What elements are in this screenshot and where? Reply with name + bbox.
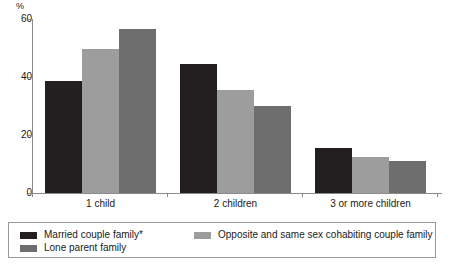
bar xyxy=(315,148,352,193)
chart-legend: Married couple family*Opposite and same … xyxy=(8,222,436,258)
x-axis-tick-mark xyxy=(32,193,33,197)
legend-item[interactable]: Opposite and same sex cohabiting couple … xyxy=(194,229,433,241)
legend-swatch-icon xyxy=(20,245,37,252)
y-axis-unit-label: % xyxy=(16,1,24,11)
legend-label: Opposite and same sex cohabiting couple … xyxy=(218,229,433,241)
x-axis-tick-mark xyxy=(302,193,303,197)
y-axis-tick-mark xyxy=(28,19,32,20)
y-axis-tick-mark xyxy=(28,135,32,136)
bar-group xyxy=(45,19,156,193)
bar xyxy=(217,90,254,193)
legend-label: Married couple family* xyxy=(44,229,143,241)
legend-swatch-icon xyxy=(20,232,37,239)
x-axis-tick-mark xyxy=(167,193,168,197)
x-axis-category-label: 2 children xyxy=(180,198,291,210)
bar-chart-figure: % 0204060 1 child2 children3 or more chi… xyxy=(0,0,452,266)
legend-label: Lone parent family xyxy=(44,242,126,254)
bar xyxy=(119,29,156,193)
y-axis-tick-mark xyxy=(28,77,32,78)
legend-item[interactable]: Married couple family* xyxy=(20,229,143,241)
x-axis-tick-mark xyxy=(437,193,438,197)
x-axis-line xyxy=(32,193,442,194)
x-axis-category-label: 1 child xyxy=(45,198,156,210)
bar xyxy=(352,157,389,193)
bar-group xyxy=(315,19,426,193)
y-axis-line xyxy=(32,19,33,193)
x-axis-category-label: 3 or more children xyxy=(315,198,426,210)
bar xyxy=(254,106,291,193)
bar xyxy=(389,161,426,193)
legend-item[interactable]: Lone parent family xyxy=(20,242,126,254)
bar xyxy=(82,49,119,193)
bar-group xyxy=(180,19,291,193)
plot-area: 0204060 xyxy=(32,19,442,193)
bar xyxy=(45,81,82,193)
bar xyxy=(180,64,217,193)
legend-swatch-icon xyxy=(194,232,211,239)
